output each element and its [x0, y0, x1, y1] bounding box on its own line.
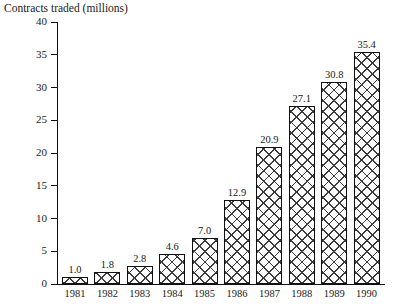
bar-value-label: 20.9: [249, 134, 289, 145]
bar: [94, 272, 120, 284]
bar: [192, 238, 218, 284]
y-axis-tick: [51, 185, 57, 186]
y-axis-tick-label: 40: [36, 16, 47, 27]
bar: [256, 147, 282, 284]
x-axis-tick-label: 1990: [347, 288, 387, 300]
y-axis-tick-label: 35: [36, 49, 47, 60]
y-axis-tick: [51, 218, 57, 219]
bar: [354, 52, 380, 284]
bar-value-label: 12.9: [217, 187, 257, 198]
y-axis-line: [57, 22, 58, 285]
y-axis-tick-label: 5: [42, 245, 48, 256]
y-axis-tick: [51, 284, 57, 285]
y-axis-tick-label: 0: [42, 278, 48, 289]
bar-value-label: 2.8: [120, 253, 160, 264]
bar: [159, 254, 185, 284]
bar-value-label: 30.8: [314, 69, 354, 80]
y-axis-tick-label: 15: [36, 180, 47, 191]
bar: [321, 82, 347, 284]
bar-value-label: 27.1: [282, 93, 322, 104]
bar: [224, 200, 250, 284]
y-axis-tick: [51, 22, 57, 23]
y-axis-tick: [51, 153, 57, 154]
x-axis-line: [57, 284, 385, 285]
bar-chart: Contracts traded (millions) 051015202530…: [0, 0, 395, 304]
plot-area: 0510152025303540 1.01.82.84.67.012.920.9…: [0, 0, 395, 304]
bar: [62, 277, 88, 284]
bar: [289, 106, 315, 284]
y-axis-tick: [51, 251, 57, 252]
y-axis-tick-label: 10: [36, 213, 47, 224]
bar-value-label: 35.4: [347, 39, 387, 50]
bar: [127, 266, 153, 284]
y-axis-tick: [51, 87, 57, 88]
y-axis-tick-label: 25: [36, 114, 47, 125]
bar-value-label: 4.6: [152, 241, 192, 252]
y-axis-tick-label: 30: [36, 82, 47, 93]
bar-value-label: 7.0: [185, 225, 225, 236]
y-axis-tick: [51, 54, 57, 55]
y-axis-tick: [51, 120, 57, 121]
y-axis-tick-label: 20: [36, 147, 47, 158]
